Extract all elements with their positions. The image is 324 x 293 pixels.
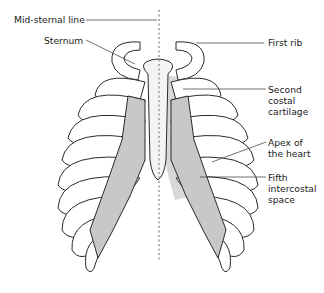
label-mid-sternal-line: Mid-sternal line bbox=[14, 14, 85, 25]
rib-cage-diagram: Mid-sternal line Sternum First rib Secon… bbox=[0, 0, 324, 293]
left-rib-1 bbox=[112, 42, 140, 80]
figure-caption-clipped bbox=[0, 287, 324, 293]
label-first-rib: First rib bbox=[268, 37, 302, 48]
label-second-costal-cartilage: Second costal cartilage bbox=[268, 84, 308, 117]
label-fifth-intercostal-space: Fifth intercostal space bbox=[268, 172, 316, 205]
label-apex-of-heart: Apex of the heart bbox=[268, 137, 310, 159]
right-rib-1 bbox=[176, 42, 204, 80]
label-sternum: Sternum bbox=[44, 35, 83, 46]
